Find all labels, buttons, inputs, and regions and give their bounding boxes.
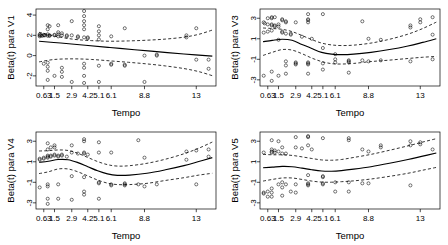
data-point (97, 38, 100, 41)
x-tick-label: 2.9 (66, 214, 78, 223)
data-point (70, 144, 73, 147)
y-tick-label: 1 (25, 159, 34, 164)
data-point (57, 24, 60, 27)
x-tick-label: 13 (416, 214, 425, 223)
data-point (70, 20, 73, 23)
data-point (185, 36, 188, 39)
data-point (284, 32, 287, 35)
data-point (367, 150, 370, 153)
y-tick-label: 1 (249, 159, 258, 164)
data-point (86, 153, 89, 156)
y-tick-label: 1 (249, 36, 258, 41)
data-point (83, 81, 86, 84)
data-point (294, 191, 297, 194)
y-axis-label: Beta(t) para V5 (229, 138, 240, 202)
data-point (307, 13, 310, 16)
plot-frame (260, 132, 440, 209)
data-point (46, 78, 49, 81)
data-point (419, 18, 422, 21)
data-point (431, 33, 434, 36)
data-point (97, 64, 100, 67)
data-point (262, 151, 265, 154)
data-point (65, 155, 68, 158)
data-point (409, 60, 412, 63)
data-point (46, 197, 49, 200)
data-point (294, 146, 297, 149)
y-tick-label: -1 (249, 55, 258, 63)
data-point (270, 187, 273, 190)
data-point (262, 31, 265, 34)
y-tick-label: 4 (25, 12, 34, 17)
x-tick-label: 5.1 (93, 214, 105, 223)
fitted-center-curve (39, 41, 212, 56)
data-point (361, 148, 364, 151)
upper-confidence-band (263, 139, 436, 161)
data-point (60, 34, 63, 37)
data-point (266, 190, 269, 193)
data-point (347, 190, 350, 193)
data-point (361, 20, 364, 23)
y-tick-label: -1 (249, 178, 258, 186)
data-point (83, 190, 86, 193)
data-point (277, 25, 280, 28)
data-point (48, 25, 51, 28)
data-point (266, 30, 269, 33)
data-point (270, 70, 273, 73)
data-point (270, 195, 273, 198)
data-point (361, 182, 364, 185)
data-point (70, 80, 73, 83)
data-point (409, 184, 412, 187)
data-point (38, 186, 41, 189)
data-point (431, 148, 434, 151)
x-tick-label: 13 (192, 214, 201, 223)
y-tick-label: 3 (249, 15, 258, 20)
x-tick-label: 1.5 (49, 214, 61, 223)
data-point (46, 61, 49, 64)
data-point (284, 183, 287, 186)
data-point (46, 202, 49, 205)
x-tick-label: 5.1 (317, 91, 329, 100)
data-point (207, 67, 210, 70)
data-point (83, 176, 86, 179)
x-tick-label: 4.2 (306, 91, 318, 100)
data-point (97, 141, 100, 144)
data-point (281, 181, 284, 184)
y-axis-label: Beta(t) para V4 (5, 138, 16, 202)
data-point (347, 139, 350, 142)
data-point (83, 24, 86, 27)
data-point (270, 191, 273, 194)
data-point (83, 36, 86, 39)
data-point (207, 58, 210, 61)
data-point (207, 155, 210, 158)
plot-frame (36, 132, 216, 209)
data-point (379, 146, 382, 149)
data-point (266, 17, 269, 20)
data-point (294, 136, 297, 139)
data-point (284, 64, 287, 67)
fitted-center-curve (263, 39, 436, 55)
x-tick-label: 8.8 (363, 91, 375, 100)
x-tick-label: 6.1 (330, 214, 342, 223)
y-tick-label: -3 (249, 76, 258, 84)
x-axis-label: Tempo (112, 230, 141, 241)
x-axis-label: Tempo (336, 230, 365, 241)
data-point (367, 182, 370, 185)
data-point (143, 156, 146, 159)
fitted-center-curve (39, 158, 212, 176)
data-point (277, 140, 280, 143)
data-point (347, 71, 350, 74)
data-point (195, 183, 198, 186)
data-point (277, 183, 280, 186)
data-point (60, 66, 63, 69)
data-point (57, 183, 60, 186)
data-points (38, 138, 210, 206)
x-tick-label: 2.9 (66, 91, 78, 100)
data-point (83, 9, 86, 12)
y-tick-label: -3 (25, 199, 34, 207)
data-point (321, 46, 324, 49)
data-point (307, 144, 310, 147)
data-point (277, 150, 280, 153)
data-point (143, 185, 146, 188)
data-point (270, 29, 273, 32)
data-point (270, 139, 273, 142)
